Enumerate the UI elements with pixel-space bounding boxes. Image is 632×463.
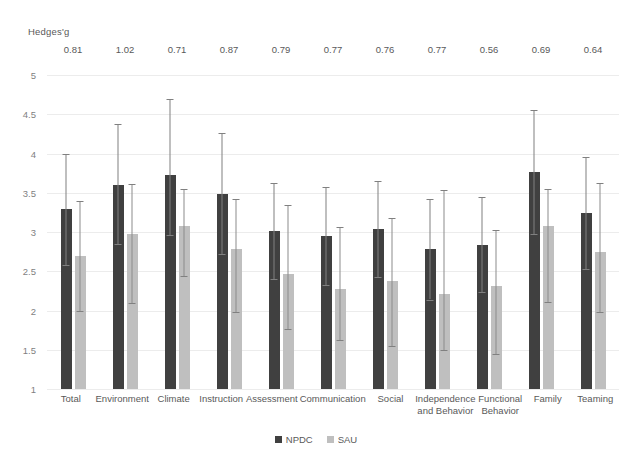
x-axis-category-label: Family [524,393,572,427]
x-axis-category-labels: TotalEnvironmentClimateInstructionAssess… [47,393,619,427]
y-axis-tick-label: 1 [31,384,36,395]
error-bar-cap-top [129,184,136,185]
bar-group [255,75,307,389]
error-bar-cap-bottom [583,269,590,270]
x-axis-category-label: Climate [150,393,198,427]
error-bar-cap-top [181,189,188,190]
hedges-g-value: 0.71 [151,44,203,60]
hedges-g-value: 0.76 [359,44,411,60]
hedges-g-value: 0.79 [255,44,307,60]
error-bar-cap-bottom [285,329,292,330]
error-bar-cap-bottom [233,312,240,313]
error-bar [274,183,275,279]
error-bar [340,227,341,340]
error-bar-cap-bottom [129,303,136,304]
error-bar-cap-bottom [479,292,486,293]
error-bar [586,157,587,268]
hedges-g-annotation-row: 0.811.020.710.870.790.770.760.770.560.69… [47,44,619,60]
legend-label: NPDC [286,434,313,445]
hedges-g-value: 0.81 [47,44,99,60]
bar-group [359,75,411,389]
x-axis-category-label: Teaming [572,393,620,427]
x-axis-category-label: Social [367,393,415,427]
error-bar-cap-bottom [323,285,330,286]
plot-area [47,75,619,389]
y-axis-tick-label: 2.5 [23,266,36,277]
error-bar [378,181,379,277]
error-bar [80,201,81,312]
hedges-g-value: 0.87 [203,44,255,60]
bar-slot [113,75,124,389]
bar-slot [477,75,488,389]
error-bar-cap-top [427,199,434,200]
legend-label: SAU [338,434,358,445]
hedges-g-value: 0.64 [567,44,619,60]
error-bar-cap-top [323,187,330,188]
error-bar-cap-top [493,230,500,231]
chart-legend: NPDCSAU [0,434,632,445]
error-bar-cap-top [285,205,292,206]
bar-slot [75,75,86,389]
bar-group [47,75,99,389]
bar-slot [61,75,72,389]
y-axis-tick-label: 1.5 [23,344,36,355]
error-bar-cap-bottom [427,300,434,301]
bar-slot [529,75,540,389]
bar-group [567,75,619,389]
x-axis-category-label: Independence and Behavior [414,393,476,427]
bar-group [99,75,151,389]
x-axis-category-label: Instruction [197,393,245,427]
y-axis-tick-label: 3 [31,227,36,238]
y-axis-tick-label: 5 [31,70,36,81]
bar-slot [335,75,346,389]
bar-group [463,75,515,389]
legend-item-sau[interactable]: SAU [327,434,358,445]
bar-group [411,75,463,389]
legend-item-npdc[interactable]: NPDC [275,434,313,445]
x-axis-category-label: Total [47,393,95,427]
error-bar-cap-top [63,154,70,155]
y-axis-tick-label: 4.5 [23,109,36,120]
error-bar-cap-bottom [167,235,174,236]
error-bar-cap-bottom [389,346,396,347]
error-bar-cap-top [337,227,344,228]
bar-slot [439,75,450,389]
x-axis-category-label: Environment [95,393,150,427]
y-axis-tick-label: 2 [31,305,36,316]
legend-swatch-icon [327,436,334,443]
error-bar [132,184,133,303]
error-bar [66,154,67,265]
error-bar-cap-top [375,181,382,182]
x-axis-category-label: Functional Behavior [476,393,524,427]
error-bar-cap-top [219,133,226,134]
hedges-g-value: 0.56 [463,44,515,60]
y-axis-tick-label: 4 [31,148,36,159]
error-bar-cap-bottom [337,340,344,341]
error-bar-cap-top [115,124,122,125]
y-axis-title: Hedges'g [28,26,69,37]
error-bar [600,183,601,312]
bar-slot [387,75,398,389]
bar-slot [595,75,606,389]
error-bar [430,199,431,299]
hedges-g-value: 1.02 [99,44,151,60]
bar-slot [491,75,502,389]
error-bar-cap-top [271,183,278,184]
bar-slot [283,75,294,389]
bar-group [515,75,567,389]
error-bar-cap-bottom [441,350,448,351]
bar-groups [47,75,619,389]
error-bar [184,189,185,276]
y-axis-tick-label: 3.5 [23,187,36,198]
hedges-g-value: 0.69 [515,44,567,60]
error-bar [534,110,535,234]
bar-slot [543,75,554,389]
gridline [47,389,619,390]
error-bar-cap-bottom [597,312,604,313]
error-bar-cap-top [531,110,538,111]
bar-slot [581,75,592,389]
error-bar-cap-bottom [375,277,382,278]
error-bar-cap-bottom [271,279,278,280]
error-bar [482,197,483,291]
error-bar-cap-top [389,218,396,219]
